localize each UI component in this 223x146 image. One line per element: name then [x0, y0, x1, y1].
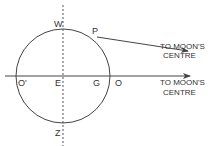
label-w: W — [54, 19, 63, 29]
label-o: O — [115, 78, 122, 88]
label-p: P — [92, 26, 98, 36]
diagram-canvas: W P O' E G O Z TO MOON'S CENTRE TO MOON'… — [0, 0, 223, 146]
upper-annotation-line1: TO MOON'S — [160, 42, 205, 51]
lower-annotation-line2: CENTRE — [163, 88, 196, 97]
label-o-prime: O' — [18, 78, 27, 88]
upper-annotation-line2: CENTRE — [163, 51, 196, 60]
label-z: Z — [55, 128, 61, 138]
label-e: E — [55, 78, 61, 88]
label-g: G — [93, 78, 100, 88]
lower-annotation-line1: TO MOON'S — [160, 78, 205, 87]
